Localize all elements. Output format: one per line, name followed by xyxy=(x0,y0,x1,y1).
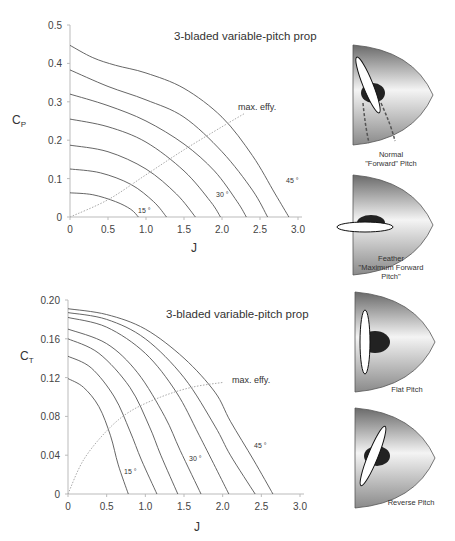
series-curve xyxy=(70,45,289,217)
y-tick-label: 0.20 xyxy=(41,295,61,306)
curves xyxy=(68,309,273,494)
y-tick-label: 0.5 xyxy=(48,20,62,31)
caption-line: "Maximum Forward xyxy=(359,263,424,272)
x-tick-label: 0.5 xyxy=(101,224,115,235)
caption-line: Reverse Pitch xyxy=(388,498,435,507)
caption-line: Normal xyxy=(379,150,404,159)
y-tick-label: 0.16 xyxy=(41,334,61,345)
x-tick-label: 0 xyxy=(65,501,71,512)
y-tick-label: 0.2 xyxy=(48,135,62,146)
series-curve xyxy=(70,193,138,217)
annotation-30deg: 30 ° xyxy=(189,455,202,462)
x-axis-label: J xyxy=(191,241,197,255)
x-tick-label: 1.0 xyxy=(138,501,152,512)
y-axis-label: CP xyxy=(12,113,26,129)
x-tick-label: 3.0 xyxy=(291,224,305,235)
illustration-feather-pitch: Feather "Maximum Forward Pitch" xyxy=(337,175,433,281)
axes: 00.51.01.52.02.53.000.040.080.120.160.20 xyxy=(41,295,308,512)
y-tick-label: 0.3 xyxy=(48,97,62,108)
axes: 00.51.01.52.02.53.000.10.20.30.40.5 xyxy=(48,20,305,235)
chart-title: 3-bladed variable-pitch prop xyxy=(174,30,317,42)
caption-line: "Forward" Pitch xyxy=(365,159,417,168)
x-tick-label: 2.0 xyxy=(215,224,229,235)
caption-line: Feather xyxy=(378,254,404,263)
annotation-45deg: 45 ° xyxy=(286,177,299,184)
y-tick-label: 0 xyxy=(54,489,60,500)
annotation-max-effy: max. effy. xyxy=(232,375,270,385)
series-curve xyxy=(68,317,229,494)
illustration-normal-pitch: Normal "Forward" Pitch xyxy=(352,45,433,168)
x-tick-label: 1.5 xyxy=(177,224,191,235)
y-tick-label: 0.4 xyxy=(48,58,62,69)
x-tick-label: 3.0 xyxy=(293,501,307,512)
caption-line: Flat Pitch xyxy=(391,385,422,394)
series-curve xyxy=(68,382,223,494)
x-tick-label: 0 xyxy=(67,224,73,235)
x-tick-label: 1.0 xyxy=(139,224,153,235)
power-coefficient-chart: 3-bladed variable-pitch prop CP J 00.51.… xyxy=(12,20,317,255)
illustration-reverse-pitch: Reverse Pitch xyxy=(355,408,435,508)
thrust-coefficient-chart: 3-bladed variable-pitch prop CT J 00.51.… xyxy=(20,295,309,534)
annotation-30deg: 30 ° xyxy=(216,191,229,198)
y-tick-label: 0.12 xyxy=(41,373,61,384)
annotation-15deg: 15 ° xyxy=(138,207,151,214)
series-curve xyxy=(70,70,268,217)
series-curve xyxy=(70,94,246,217)
series-curve xyxy=(70,113,245,217)
x-tick-label: 2.0 xyxy=(216,501,230,512)
illustration-flat-pitch: Flat Pitch xyxy=(355,292,435,394)
figure-canvas: 3-bladed variable-pitch prop CP J 00.51.… xyxy=(0,0,455,541)
y-tick-label: 0 xyxy=(56,212,62,223)
series-curve xyxy=(68,309,273,494)
series-curve xyxy=(68,356,157,494)
x-tick-label: 1.5 xyxy=(177,501,191,512)
x-tick-label: 2.5 xyxy=(254,501,268,512)
x-tick-label: 2.5 xyxy=(253,224,267,235)
y-axis-label: CT xyxy=(20,349,34,365)
y-tick-label: 0.1 xyxy=(48,174,62,185)
series-curve xyxy=(70,145,195,217)
annotation-45deg: 45 ° xyxy=(254,442,267,449)
curves xyxy=(70,45,289,217)
series-curve xyxy=(68,379,128,494)
x-axis-label: J xyxy=(194,520,200,534)
caption-line: Pitch" xyxy=(381,272,401,281)
y-tick-label: 0.04 xyxy=(41,450,61,461)
annotation-15deg: 15 ° xyxy=(124,468,137,475)
x-tick-label: 0.5 xyxy=(100,501,114,512)
y-tick-label: 0.08 xyxy=(41,411,61,422)
annotation-max-effy: max. effy. xyxy=(238,102,276,112)
chart-title: 3-bladed variable-pitch prop xyxy=(166,308,309,320)
